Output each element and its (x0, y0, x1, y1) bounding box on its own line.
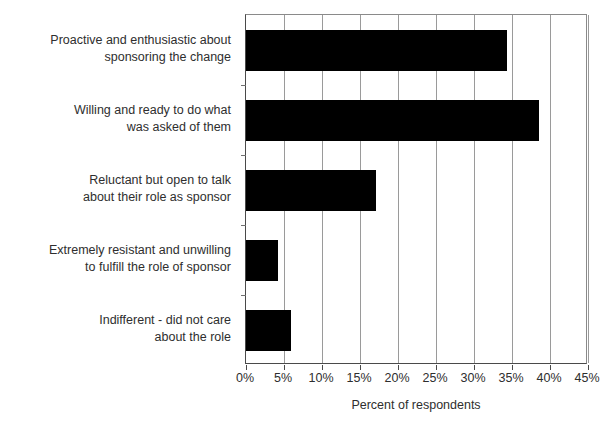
x-axis-title: Percent of respondents (245, 398, 587, 412)
bar (246, 240, 278, 281)
gridline (512, 15, 513, 363)
x-axis-tick-label: 5% (274, 370, 292, 386)
plot-area (245, 14, 587, 364)
y-axis-tick (241, 85, 246, 86)
category-label: Extremely resistant and unwillingto fulf… (0, 224, 238, 294)
category-label-line: Extremely resistant and unwilling (49, 242, 231, 259)
category-label-line: about the role (155, 329, 231, 346)
gridline (588, 15, 589, 363)
x-axis-tick-label: 35% (498, 370, 523, 386)
x-axis-tick-label: 15% (346, 370, 371, 386)
category-label-line: to fulfill the role of sponsor (85, 259, 231, 276)
category-label-line: was asked of them (127, 119, 231, 136)
bar-chart: Proactive and enthusiastic aboutsponsori… (0, 0, 614, 446)
bar (246, 170, 376, 211)
category-label: Reluctant but open to talkabout their ro… (0, 154, 238, 224)
x-axis-tick-label: 20% (384, 370, 409, 386)
category-label-line: Proactive and enthusiastic about (50, 32, 231, 49)
bar (246, 310, 291, 351)
x-axis-tick-label: 40% (536, 370, 561, 386)
category-label: Indifferent - did not careabout the role (0, 294, 238, 364)
x-axis-tick-label: 30% (460, 370, 485, 386)
y-axis-tick (241, 295, 246, 296)
x-axis-tick-label: 45% (574, 370, 599, 386)
x-axis-tick-label: 25% (422, 370, 447, 386)
category-label-line: Indifferent - did not care (99, 312, 231, 329)
category-label: Proactive and enthusiastic aboutsponsori… (0, 14, 238, 84)
gridline (550, 15, 551, 363)
bar (246, 30, 507, 71)
category-axis-labels: Proactive and enthusiastic aboutsponsori… (0, 14, 238, 364)
x-axis-tick-label: 0% (236, 370, 254, 386)
x-axis-tick-labels: 0%5%10%15%20%25%30%35%40%45% (0, 370, 614, 388)
bar (246, 100, 539, 141)
category-label-line: Willing and ready to do what (74, 102, 231, 119)
category-label-line: sponsoring the change (105, 49, 231, 66)
y-axis-tick (241, 155, 246, 156)
category-label-line: about their role as sponsor (83, 189, 231, 206)
x-axis-tick-label: 10% (308, 370, 333, 386)
category-label-line: Reluctant but open to talk (89, 172, 231, 189)
y-axis-tick (241, 225, 246, 226)
category-label: Willing and ready to do whatwas asked of… (0, 84, 238, 154)
